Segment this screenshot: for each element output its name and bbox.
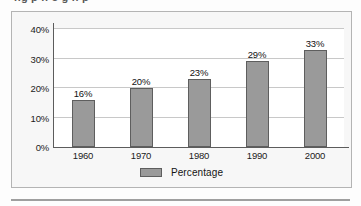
bar-value-label: 20% <box>132 76 150 87</box>
figure-frame: 0%10%20%30%40% 16%196020%197023%198029%1… <box>11 11 352 188</box>
gridline <box>54 58 344 59</box>
legend-label-percentage: Percentage <box>171 167 223 178</box>
clipped-caption-text: ng p n o g n p <box>0 0 361 7</box>
y-axis-tick-label: 20% <box>31 83 49 94</box>
y-axis-tick-label: 30% <box>31 53 49 64</box>
scanned-page: ng p n o g n p 0%10%20%30%40% 16%196020%… <box>0 0 361 206</box>
x-axis-tick-label: 1990 <box>247 150 267 161</box>
plot-area: 0%10%20%30%40% 16%196020%197023%198029%1… <box>54 29 344 147</box>
bar: 20% <box>130 88 153 147</box>
gridline <box>54 28 344 29</box>
bar: 23% <box>188 79 211 147</box>
bar: 33% <box>304 50 327 147</box>
y-axis-tick-label: 40% <box>31 24 49 35</box>
x-axis-tick-label: 2000 <box>305 150 325 161</box>
bar-value-label: 33% <box>306 38 324 49</box>
x-axis-tick-label: 1960 <box>73 150 93 161</box>
bar-chart: 0%10%20%30%40% 16%196020%197023%198029%1… <box>12 12 351 187</box>
chart-legend: Percentage <box>12 167 351 178</box>
legend-swatch-percentage <box>140 168 162 177</box>
bar-value-label: 29% <box>248 49 266 60</box>
bar-value-label: 23% <box>190 67 208 78</box>
x-axis-tick-label: 1970 <box>131 150 151 161</box>
bar: 29% <box>246 61 269 147</box>
y-axis-tick-label: 0% <box>36 142 49 153</box>
bar-value-label: 16% <box>74 88 92 99</box>
y-axis-line <box>53 23 54 147</box>
y-axis-tick-label: 10% <box>31 112 49 123</box>
x-axis-line <box>53 147 349 148</box>
horizontal-rule <box>11 199 350 201</box>
bar: 16% <box>72 100 95 147</box>
x-axis-tick-label: 1980 <box>189 150 209 161</box>
